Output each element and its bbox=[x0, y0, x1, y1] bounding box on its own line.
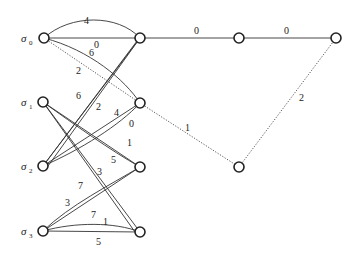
node-sigma0 bbox=[39, 33, 49, 43]
weight-s3-D-5: 5 bbox=[96, 236, 101, 247]
edge-s1-D-7 bbox=[43, 102, 135, 232]
node-F bbox=[331, 33, 341, 43]
node-D bbox=[135, 227, 145, 237]
weight-s2-B-4: 4 bbox=[114, 107, 119, 118]
weight-s2-A-2: 2 bbox=[96, 101, 101, 112]
edge-s0-A-arc bbox=[44, 20, 140, 38]
edge-s2-A-2 bbox=[43, 41, 137, 166]
label-sigma3-sub: 3 bbox=[29, 232, 33, 240]
node-C bbox=[135, 162, 145, 172]
edge-s1-C-1 bbox=[43, 102, 140, 167]
label-sigma1: σ bbox=[21, 96, 27, 108]
weight-s0-B-dotted: 2 bbox=[76, 65, 81, 76]
label-sigma0-sub: 0 bbox=[29, 39, 33, 47]
weight-s1-C-1: 1 bbox=[127, 137, 132, 148]
weight-G-F: 0 bbox=[284, 25, 289, 36]
label-sigma1-sub: 1 bbox=[29, 103, 33, 111]
weight-s0-A-arc: 4 bbox=[84, 15, 89, 26]
weight-s0-A: 0 bbox=[94, 39, 99, 50]
weight-s1-D-7: 7 bbox=[78, 180, 83, 191]
label-sigma0: σ bbox=[21, 32, 27, 44]
node-A bbox=[135, 33, 145, 43]
weight-E-F: 2 bbox=[299, 92, 304, 103]
weight-s1-D-3: 3 bbox=[97, 166, 102, 177]
node-sigma3 bbox=[38, 226, 48, 236]
weight-s0-B-bend: 6 bbox=[89, 47, 94, 58]
weight-s3-C-7: 7 bbox=[91, 209, 96, 220]
edge-B-E-dotted bbox=[140, 103, 239, 167]
weight-s3-D-1: 1 bbox=[103, 216, 108, 227]
node-G bbox=[234, 33, 244, 43]
weight-A-G: 0 bbox=[194, 25, 199, 36]
weighted-graph-diagram: σ 0 σ 1 σ 2 σ 3 4 0 6 2 6 2 4 0 1 5 3 7 … bbox=[0, 0, 356, 260]
node-E bbox=[234, 162, 244, 172]
label-sigma2: σ bbox=[21, 160, 27, 172]
weight-s2-A-6: 6 bbox=[76, 90, 81, 101]
node-B bbox=[135, 98, 145, 108]
label-sigma2-sub: 2 bbox=[29, 167, 33, 175]
weight-B-E: 1 bbox=[185, 122, 190, 133]
weight-s1-C-5: 5 bbox=[111, 154, 116, 165]
weight-s2-B-0: 0 bbox=[129, 118, 134, 129]
edge-s3-D-5 bbox=[43, 231, 140, 232]
edge-s3-C-7 bbox=[43, 167, 140, 231]
node-sigma2 bbox=[38, 161, 48, 171]
weight-s3-C-3: 3 bbox=[65, 197, 70, 208]
node-sigma1 bbox=[38, 97, 48, 107]
edge-E-F-dotted bbox=[239, 38, 336, 167]
label-sigma3: σ bbox=[21, 225, 27, 237]
